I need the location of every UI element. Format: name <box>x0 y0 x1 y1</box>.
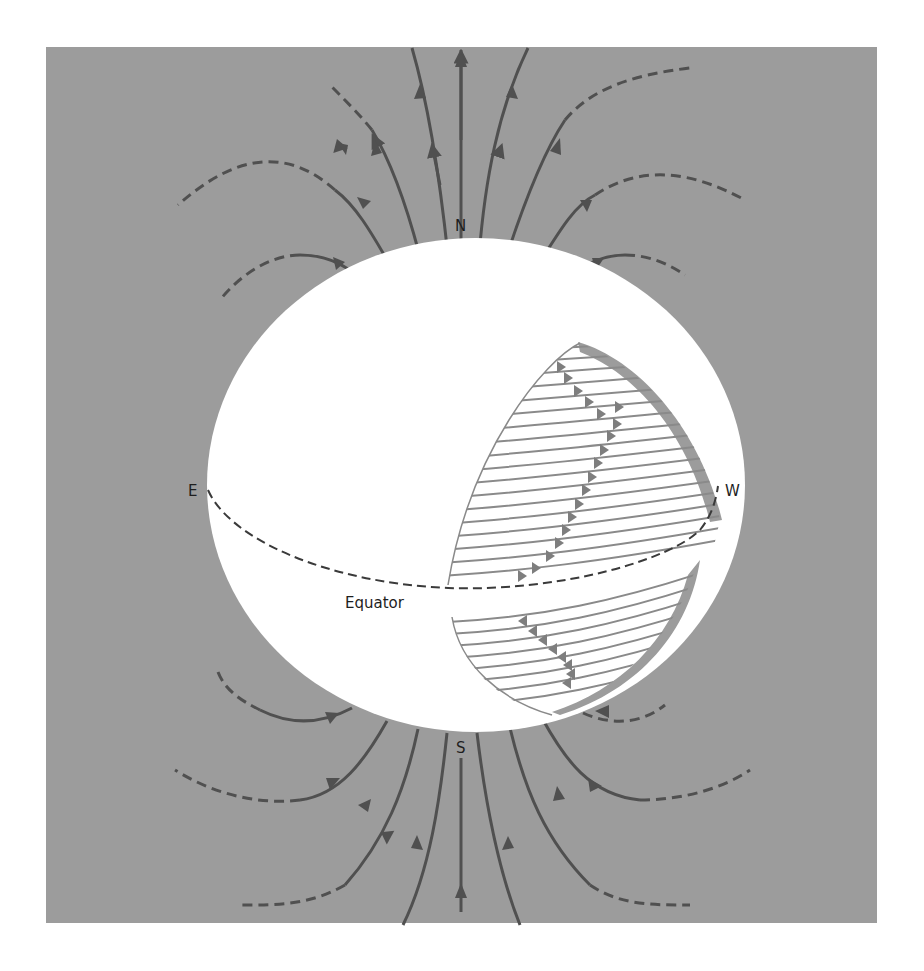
north-label: N <box>455 217 466 235</box>
equator-label: Equator <box>345 594 405 612</box>
east-label: E <box>188 482 197 500</box>
magnetic-field-diagram: N S E W Equator <box>0 0 924 971</box>
south-label: S <box>456 739 466 757</box>
west-label: W <box>725 482 740 500</box>
